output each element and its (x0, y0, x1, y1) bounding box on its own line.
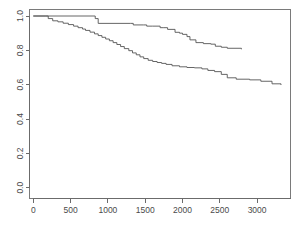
y-axis-ticks (26, 16, 30, 188)
y-tick-label: 0.8 (15, 44, 25, 56)
x-axis-ticks (33, 199, 257, 203)
x-tick-label: 0 (31, 205, 36, 215)
x-axis-tick-labels: 050010001500200025003000 (31, 205, 267, 215)
y-tick-label: 0.0 (15, 182, 25, 194)
survival-plot-figure: 050010001500200025003000 0.00.20.40.60.8… (0, 0, 308, 234)
y-tick-label: 0.4 (15, 113, 25, 125)
plot-frame (30, 10, 291, 199)
kaplan-meier-chart: 050010001500200025003000 0.00.20.40.60.8… (0, 0, 308, 234)
x-tick-label: 2000 (173, 205, 192, 215)
y-tick-label: 0.2 (15, 147, 25, 159)
y-axis-tick-labels: 0.00.20.40.60.81.0 (15, 10, 25, 194)
x-tick-label: 1000 (98, 205, 117, 215)
x-tick-label: 3000 (248, 205, 267, 215)
x-tick-label: 500 (64, 205, 78, 215)
y-tick-label: 0.6 (15, 79, 25, 91)
x-tick-label: 1500 (136, 205, 155, 215)
y-tick-label: 1.0 (15, 10, 25, 22)
survival-curve-upper-curve (33, 16, 241, 49)
survival-curves (33, 16, 281, 85)
x-tick-label: 2500 (210, 205, 229, 215)
